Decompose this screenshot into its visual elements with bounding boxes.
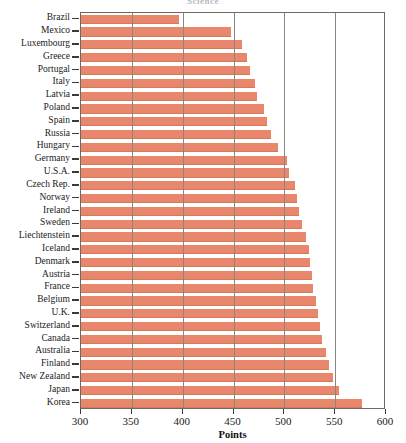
- category-tick: [72, 120, 79, 122]
- category-label: Sweden: [40, 218, 70, 228]
- category-axis-labels: BrazilMexicoLuxembourgGreecePortugalItal…: [0, 12, 76, 409]
- category-label: Mexico: [41, 26, 70, 36]
- bar-poland: [81, 104, 264, 113]
- category-tick: [72, 43, 79, 45]
- category-tick: [72, 94, 79, 96]
- category-label: Brazil: [47, 13, 70, 23]
- category-label: Belgium: [37, 295, 70, 305]
- category-tick: [72, 299, 79, 301]
- category-label: Luxembourg: [21, 39, 70, 49]
- x-tick-label: 400: [173, 415, 190, 427]
- category-label: Russia: [45, 129, 70, 139]
- category-label: Czech Rep.: [26, 180, 70, 190]
- category-label: U.K.: [52, 308, 70, 318]
- x-tick-300: [80, 409, 81, 414]
- bar-finland: [81, 360, 329, 369]
- category-tick: [72, 69, 79, 71]
- bar-norway: [81, 194, 297, 203]
- science-points-bar-chart: Science BrazilMexicoLuxembourgGreecePort…: [0, 0, 406, 443]
- category-label: Korea: [47, 398, 70, 408]
- category-tick: [72, 158, 79, 160]
- category-tick: [72, 274, 79, 276]
- category-label: Austria: [42, 270, 70, 280]
- category-tick: [72, 235, 79, 237]
- category-tick: [72, 351, 79, 353]
- bar-russia: [81, 130, 271, 139]
- category-label: Hungary: [37, 141, 70, 151]
- x-tick-600: [385, 409, 386, 414]
- bar-sweden: [81, 220, 302, 229]
- category-tick: [72, 56, 79, 58]
- category-label: Japan: [48, 385, 70, 395]
- category-label: Germany: [35, 154, 70, 164]
- bar-new-zealand: [81, 373, 333, 382]
- category-label: Portugal: [38, 65, 70, 75]
- category-tick: [72, 223, 79, 225]
- x-tick-label: 300: [72, 415, 89, 427]
- bar-korea: [81, 399, 362, 408]
- bar-hungary: [81, 143, 278, 152]
- category-label: Australia: [35, 346, 70, 356]
- category-tick: [72, 338, 79, 340]
- x-tick-label: 550: [326, 415, 343, 427]
- bar-austria: [81, 271, 312, 280]
- x-tick-label: 600: [377, 415, 394, 427]
- gridline-350: [132, 13, 133, 408]
- category-label: Liechtenstein: [19, 231, 70, 241]
- bar-greece: [81, 53, 247, 62]
- category-label: Spain: [48, 116, 70, 126]
- bar-brazil: [81, 15, 179, 24]
- category-label: France: [44, 282, 70, 292]
- x-tick-label: 350: [123, 415, 140, 427]
- category-tick: [72, 287, 79, 289]
- gridline-450: [234, 13, 235, 408]
- category-tick: [72, 30, 79, 32]
- category-tick: [72, 197, 79, 199]
- bar-u-s-a-: [81, 168, 289, 177]
- x-tick-550: [334, 409, 335, 414]
- bar-ireland: [81, 207, 299, 216]
- category-label: Switzerland: [25, 321, 70, 331]
- x-tick-350: [131, 409, 132, 414]
- chart-title: Science: [0, 0, 406, 5]
- x-axis-title: Points: [80, 429, 385, 440]
- bar-germany: [81, 156, 287, 165]
- category-label: Greece: [43, 52, 70, 62]
- category-label: Norway: [39, 193, 70, 203]
- category-tick: [72, 210, 79, 212]
- bar-series: [81, 13, 384, 408]
- category-label: Canada: [42, 334, 71, 344]
- category-label: Ireland: [43, 206, 70, 216]
- bar-italy: [81, 79, 255, 88]
- bar-canada: [81, 335, 322, 344]
- category-tick: [72, 146, 79, 148]
- category-label: Iceland: [42, 244, 70, 254]
- category-label: Italy: [53, 77, 70, 87]
- category-label: New Zealand: [19, 372, 70, 382]
- gridline-550: [335, 13, 336, 408]
- x-tick-500: [283, 409, 284, 414]
- bar-portugal: [81, 66, 250, 75]
- x-tick-label: 450: [224, 415, 241, 427]
- category-tick: [72, 261, 79, 263]
- category-tick: [72, 171, 79, 173]
- bar-japan: [81, 386, 339, 395]
- category-tick: [72, 133, 79, 135]
- bar-australia: [81, 348, 326, 357]
- category-tick: [72, 18, 79, 20]
- category-tick: [72, 184, 79, 186]
- bar-mexico: [81, 27, 231, 36]
- bar-u-k-: [81, 309, 318, 318]
- category-label: Finland: [41, 359, 70, 369]
- x-tick-400: [182, 409, 183, 414]
- category-tick: [72, 82, 79, 84]
- x-tick-450: [233, 409, 234, 414]
- category-tick: [72, 248, 79, 250]
- plot-area: [80, 12, 385, 409]
- category-label: Latvia: [46, 90, 70, 100]
- bar-denmark: [81, 258, 310, 267]
- category-tick: [72, 312, 79, 314]
- category-label: Poland: [44, 103, 70, 113]
- gridline-400: [183, 13, 184, 408]
- category-tick: [72, 402, 79, 404]
